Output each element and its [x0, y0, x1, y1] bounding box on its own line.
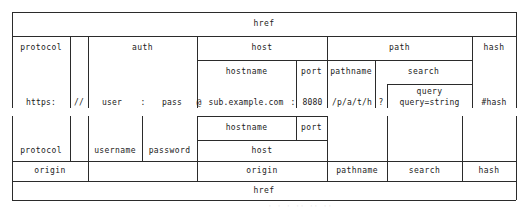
value-slashes: //: [70, 96, 88, 110]
label-pathname-top: pathname: [327, 60, 375, 84]
value-hostname: sub.example.com: [204, 96, 288, 110]
value-port-colon: :: [288, 96, 298, 110]
label-password-bottom: password: [142, 140, 197, 161]
url-structure-diagram: href protocol auth host path hash hostna…: [0, 0, 530, 211]
value-auth-colon: :: [136, 96, 150, 110]
label-href-top: href: [12, 12, 516, 36]
label-port-bottom: port: [296, 116, 327, 140]
label-origin-left: origin: [12, 161, 88, 181]
label-hostname-bottom: hostname: [197, 116, 296, 140]
label-origin-right: origin: [197, 161, 327, 181]
label-search-top: search: [375, 60, 472, 84]
rule-bottom-protocol-right: [70, 116, 71, 161]
label-search-bottom: search: [387, 161, 462, 181]
value-protocol: https:: [12, 96, 70, 110]
value-pathname: /p/a/t/h: [329, 96, 375, 110]
label-auth: auth: [88, 36, 197, 60]
label-href-bottom: href: [12, 181, 516, 200]
label-protocol-top: protocol: [12, 36, 70, 60]
value-username: user: [92, 96, 132, 110]
value-query-string: query=string: [387, 96, 472, 110]
value-password: pass: [152, 96, 192, 110]
label-hash-top: hash: [472, 36, 516, 60]
label-username-bottom: username: [88, 140, 142, 161]
label-path: path: [327, 36, 472, 60]
label-port-top: port: [296, 60, 327, 84]
label-host-top: host: [197, 36, 327, 60]
label-pathname-bottom: pathname: [327, 161, 387, 181]
label-host-bottom: host: [197, 140, 327, 161]
rule-right-outer-top: [516, 12, 517, 108]
label-protocol-bottom: protocol: [12, 140, 70, 161]
value-hash: #hash: [472, 96, 516, 110]
scan-artifact: · · · ·· ·· ··: [268, 202, 333, 209]
rule-bottom-right-outer: [516, 116, 517, 200]
label-hostname-top: hostname: [197, 60, 296, 84]
value-at-sign: @: [194, 96, 204, 110]
rule-bottom-outer: [12, 200, 516, 201]
value-question-mark: ?: [375, 96, 387, 110]
value-port: 8080: [298, 96, 327, 110]
label-hash-bottom: hash: [462, 161, 516, 181]
